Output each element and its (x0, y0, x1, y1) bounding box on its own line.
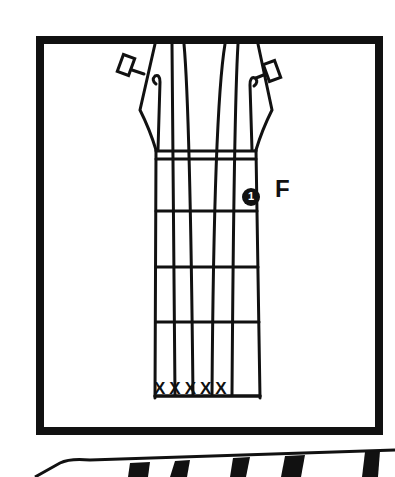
chord-note-label: F (275, 175, 290, 203)
finger-number: 1 (248, 190, 254, 202)
guitar-neck-illustration (0, 0, 395, 477)
headstock-left-edge (140, 44, 156, 150)
lower-neck-illustration (35, 450, 395, 477)
tuner-peg-left-icon (117, 54, 134, 75)
headstock-right-edge (256, 44, 272, 150)
muted-strings-marks: XXXXX (154, 379, 231, 399)
